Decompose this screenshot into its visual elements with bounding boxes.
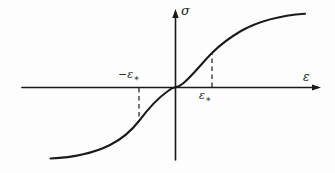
- plot-canvas: [0, 0, 335, 173]
- tick-label-negative-epsilon-star: −ε∗: [118, 69, 139, 83]
- neg-eps-star-subscript: ∗: [133, 73, 139, 83]
- y-axis-arrowhead: [172, 9, 178, 18]
- tick-label-positive-epsilon-star: ε∗: [199, 90, 211, 104]
- x-axis-label-epsilon: ε: [303, 71, 309, 83]
- y-axis-label-sigma: σ: [181, 4, 190, 17]
- neg-eps-base: −ε: [118, 68, 133, 81]
- stress-strain-curve: [51, 14, 306, 159]
- x-axis-arrowhead: [312, 84, 321, 90]
- axes-group: [22, 9, 321, 160]
- data-curve-group: [51, 14, 306, 159]
- stress-strain-figure: σ ε −ε∗ ε∗: [0, 0, 335, 173]
- pos-eps-star-subscript: ∗: [205, 94, 211, 104]
